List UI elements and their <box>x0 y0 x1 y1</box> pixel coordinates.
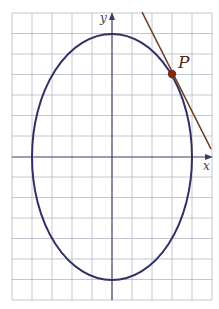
ellipse-diagram: P x y <box>0 0 219 309</box>
point-p <box>168 70 176 78</box>
y-axis-label: y <box>99 11 107 25</box>
x-axis-label: x <box>203 159 210 173</box>
point-p-label: P <box>177 52 190 72</box>
